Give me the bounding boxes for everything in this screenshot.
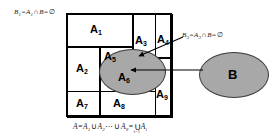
set-b-label: B bbox=[228, 67, 237, 82]
annot-left-emptyset-icon: ∅ bbox=[49, 8, 56, 16]
annotation-b3-empty: B3=A3∩B=∅ bbox=[182, 31, 224, 39]
annotation-b1-empty: B1=A1∩B=∅ bbox=[14, 8, 56, 16]
annot-bottom-ai-sub: i bbox=[145, 127, 147, 132]
annot-bottom-a2-sub: 2 bbox=[102, 127, 105, 132]
annot-left-b2: B bbox=[39, 8, 43, 16]
cell-label-a2: A2 bbox=[76, 63, 88, 74]
cell-label-a7: A7 bbox=[76, 98, 88, 109]
cell-label-a5: A5 bbox=[104, 51, 116, 62]
cell-label-a6: A6 bbox=[118, 72, 130, 83]
cell-label-a3: A3 bbox=[135, 35, 147, 46]
cell-label-a8: A8 bbox=[113, 98, 125, 109]
cell-label-a9: A9 bbox=[156, 89, 168, 100]
annot-bottom-a: A bbox=[73, 122, 78, 131]
cell-label-a1: A1 bbox=[90, 24, 102, 35]
annot-right-b2: B bbox=[207, 31, 211, 39]
partition-rectangle-a: A1 A2 A3 A4 A5 A6 A7 A8 A9 bbox=[66, 13, 172, 117]
annot-right-b-sub: 3 bbox=[186, 35, 189, 40]
annot-right-eq2: = bbox=[212, 31, 217, 39]
annot-bottom-cup2-icon: ∪ bbox=[114, 122, 121, 131]
diagram-canvas: B1=A1∩B=∅ B3=A3∩B=∅ A=A1∪A2⋯∪A9=∪i=1Ai A… bbox=[0, 0, 275, 138]
annot-left-b-sub: 1 bbox=[18, 12, 21, 17]
annot-bottom-a9-sub: 9 bbox=[126, 127, 129, 132]
cell-a8 bbox=[100, 91, 156, 118]
annot-bottom-eq2: = bbox=[128, 122, 133, 131]
annot-right-a-sub: 3 bbox=[198, 35, 201, 40]
annot-bottom-a9: A bbox=[121, 122, 126, 131]
cell-label-a4: A4 bbox=[157, 34, 169, 45]
annot-bottom-a1-sub: 1 bbox=[88, 127, 91, 132]
annotation-union-formula: A=A1∪A2⋯∪A9=∪i=1Ai bbox=[73, 120, 147, 131]
annot-right-emptyset-icon: ∅ bbox=[217, 31, 224, 39]
annot-left-eq2: = bbox=[44, 8, 49, 16]
annot-bottom-dots-icon: ⋯ bbox=[105, 122, 114, 131]
annot-left-a-sub: 1 bbox=[30, 12, 33, 17]
